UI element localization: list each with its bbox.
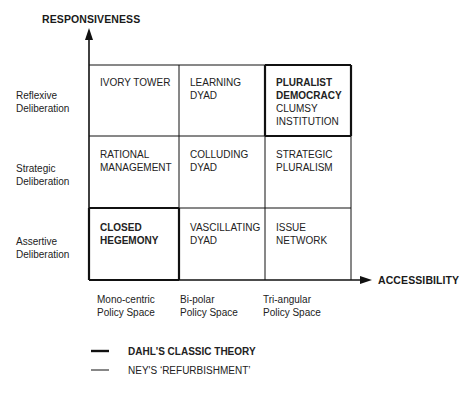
row-label-reflexive: Reflexive Deliberation (16, 89, 69, 115)
cell-issue-network: ISSUE NETWORK (276, 222, 327, 247)
row-label-line: Deliberation (16, 248, 69, 261)
row-label-line: Deliberation (16, 102, 69, 115)
column-label-mono-centric: Mono-centric Policy Space (97, 293, 155, 319)
cell-primary-text: COLLUDING (190, 149, 248, 162)
cell-rational-management: RATIONAL MANAGEMENT (100, 149, 172, 174)
row-label-line: Assertive (16, 235, 69, 248)
column-label-line: Policy Space (263, 306, 321, 319)
cell-primary-text: LEARNING (190, 77, 241, 90)
cell-primary-text: STRATEGIC (276, 149, 333, 162)
row-label-line: Deliberation (16, 175, 69, 188)
cell-primary-text: HEGEMONY (100, 235, 158, 248)
cell-pluralist-democracy: PLURALIST DEMOCRACY CLUMSY INSTITUTION (276, 77, 342, 128)
cell-primary-text: NETWORK (276, 235, 327, 248)
cell-secondary-text: CLUMSY (276, 103, 342, 116)
legend-label-ney: NEY'S ‘REFURBISHMENT’ (128, 365, 250, 376)
column-label-line: Policy Space (180, 306, 238, 319)
cell-primary-text: MANAGEMENT (100, 162, 172, 175)
cell-primary-text: PLURALIST (276, 77, 342, 90)
column-label-bi-polar: Bi-polar Policy Space (180, 293, 238, 319)
cell-vascillating-dyad: VASCILLATING DYAD (190, 222, 260, 247)
row-label-line: Reflexive (16, 89, 69, 102)
cell-closed-hegemony: CLOSED HEGEMONY (100, 222, 158, 247)
cell-primary-text: IVORY TOWER (100, 77, 170, 90)
column-label-line: Tri-angular (263, 293, 321, 306)
typology-diagram (0, 0, 466, 395)
cell-primary-text: RATIONAL (100, 149, 172, 162)
cell-secondary-text: INSTITUTION (276, 116, 342, 129)
cell-primary-text: VASCILLATING (190, 222, 260, 235)
cell-strategic-pluralism: STRATEGIC PLURALISM (276, 149, 333, 174)
x-axis-arrow-icon (360, 276, 372, 284)
cell-primary-text: DYAD (190, 162, 248, 175)
x-axis-title: ACCESSIBILITY (378, 274, 459, 286)
cell-learning-dyad: LEARNING DYAD (190, 77, 241, 102)
row-label-assertive: Assertive Deliberation (16, 235, 69, 261)
cell-colluding-dyad: COLLUDING DYAD (190, 149, 248, 174)
cell-primary-text: DEMOCRACY (276, 90, 342, 103)
cell-primary-text: ISSUE (276, 222, 327, 235)
column-label-line: Mono-centric (97, 293, 155, 306)
cell-primary-text: CLOSED (100, 222, 158, 235)
row-label-line: Strategic (16, 162, 69, 175)
legend-label-dahl: DAHL'S CLASSIC THEORY (128, 346, 256, 357)
cell-ivory-tower: IVORY TOWER (100, 77, 170, 90)
cell-primary-text: DYAD (190, 235, 260, 248)
column-label-line: Bi-polar (180, 293, 238, 306)
column-label-line: Policy Space (97, 306, 155, 319)
column-label-tri-angular: Tri-angular Policy Space (263, 293, 321, 319)
cell-primary-text: PLURALISM (276, 162, 333, 175)
cell-primary-text: DYAD (190, 90, 241, 103)
row-label-strategic: Strategic Deliberation (16, 162, 69, 188)
y-axis-arrow-icon (85, 28, 93, 40)
y-axis-title: RESPONSIVENESS (42, 13, 140, 25)
